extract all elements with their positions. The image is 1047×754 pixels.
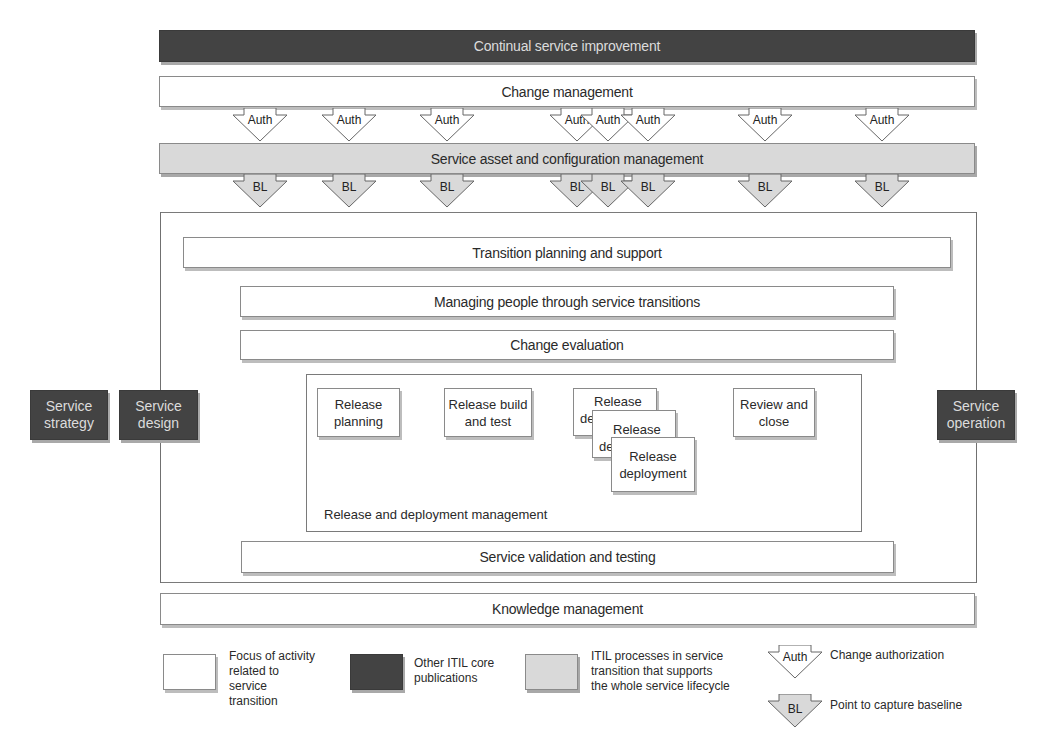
bl-arrow-icon: BL [233, 174, 287, 208]
review-close-line-2: close [740, 413, 808, 430]
knowledge-management-bar: Knowledge management [160, 593, 975, 625]
strategy-line-2: strategy [44, 415, 94, 432]
legend-focus-line-2: related to [229, 664, 315, 679]
bl-arrow-label: BL [420, 180, 474, 194]
release-planning-line-1: Release [334, 396, 383, 413]
operation-line-2: operation [947, 415, 1005, 432]
review-close-line-1: Review and [740, 396, 808, 413]
release-planning-line-2: planning [334, 413, 383, 430]
legend-supporting-line-1: ITIL processes in service [591, 649, 730, 664]
service-design-box: Service design [119, 390, 198, 440]
auth-arrow-label: Auth [233, 113, 287, 127]
service-validation-bar: Service validation and testing [241, 541, 894, 573]
legend-focus-line-4: transition [229, 694, 315, 709]
bl-arrow-icon: BL [420, 174, 474, 208]
auth-arrow-icon: Auth [233, 108, 287, 142]
bl-arrow-icon: BL [621, 174, 675, 208]
release-build-line-2: and test [449, 413, 528, 430]
design-line-2: design [135, 415, 182, 432]
bl-arrow-icon: BL [322, 174, 376, 208]
release-deploy-back-line-1: Release [580, 393, 656, 410]
auth-arrow-label: Auth [738, 113, 792, 127]
knowledge-management-label: Knowledge management [492, 601, 643, 617]
bl-arrow-label: BL [738, 180, 792, 194]
legend-supporting-line-2: transition that supports [591, 664, 730, 679]
legend-other-core-line-1: Other ITIL core [414, 656, 494, 671]
bl-arrow-label: BL [233, 180, 287, 194]
bl-arrow-label: BL [322, 180, 376, 194]
csi-label: Continual service improvement [474, 38, 660, 54]
legend-bl-desc: Point to capture baseline [830, 698, 962, 713]
legend-auth-desc: Change authorization [830, 648, 944, 663]
legend-focus-line-1: Focus of activity [229, 649, 315, 664]
auth-arrow-label: Auth [322, 113, 376, 127]
legend-bl-symbol: BL [768, 702, 822, 716]
release-deploy-mid-line-1: Release [599, 421, 675, 438]
legend-bl-arrow-icon: BL [768, 694, 822, 728]
legend-swatch-focus [163, 654, 216, 690]
service-operation-box: Service operation [937, 390, 1015, 440]
service-validation-label: Service validation and testing [479, 549, 655, 565]
change-management-bar: Change management [159, 76, 975, 107]
bl-arrow-icon: BL [855, 174, 909, 208]
release-planning-box: Release planning [317, 388, 400, 437]
managing-people-label: Managing people through service transiti… [434, 294, 700, 310]
managing-people-bar: Managing people through service transiti… [240, 286, 894, 317]
release-deployment-title: Release and deployment management [324, 507, 547, 522]
release-deployment-box-front: Release deployment [611, 437, 695, 492]
design-line-1: Service [135, 398, 182, 415]
legend-focus-line-3: service [229, 679, 315, 694]
legend-focus-text: Focus of activity related to service tra… [229, 649, 315, 709]
continual-service-improvement-bar: Continual service improvement [159, 30, 975, 62]
transition-planning-label: Transition planning and support [472, 245, 661, 261]
auth-arrow-label: Auth [420, 113, 474, 127]
release-deploy-front-line-1: Release [619, 448, 686, 465]
release-build-line-1: Release build [449, 396, 528, 413]
change-evaluation-bar: Change evaluation [240, 330, 894, 360]
release-deploy-front-line-2: deployment [619, 465, 686, 482]
auth-arrow-icon: Auth [621, 108, 675, 142]
legend-swatch-supporting [525, 654, 578, 690]
operation-line-1: Service [947, 398, 1005, 415]
bl-arrow-label: BL [621, 180, 675, 194]
legend-auth-arrow-icon: Auth [768, 645, 822, 679]
legend-supporting-line-3: the whole service lifecycle [591, 679, 730, 694]
auth-arrow-icon: Auth [322, 108, 376, 142]
legend-other-core-text: Other ITIL core publications [414, 656, 494, 686]
bl-arrow-label: BL [855, 180, 909, 194]
auth-arrow-icon: Auth [420, 108, 474, 142]
service-strategy-box: Service strategy [30, 390, 108, 440]
transition-planning-bar: Transition planning and support [183, 237, 951, 268]
auth-arrow-label: Auth [621, 113, 675, 127]
bl-arrow-icon: BL [738, 174, 792, 208]
auth-arrow-icon: Auth [855, 108, 909, 142]
auth-arrow-icon: Auth [738, 108, 792, 142]
change-evaluation-label: Change evaluation [510, 337, 623, 353]
legend-other-core-line-2: publications [414, 671, 494, 686]
legend-supporting-text: ITIL processes in service transition tha… [591, 649, 730, 694]
release-build-test-box: Release build and test [444, 388, 532, 437]
service-asset-config-bar: Service asset and configuration manageme… [159, 143, 975, 174]
review-close-box: Review and close [733, 388, 815, 437]
legend-swatch-other-core [350, 654, 403, 690]
strategy-line-1: Service [44, 398, 94, 415]
legend-auth-symbol: Auth [768, 650, 822, 664]
auth-arrow-label: Auth [855, 113, 909, 127]
sacm-label: Service asset and configuration manageme… [431, 151, 704, 167]
change-management-label: Change management [501, 84, 632, 100]
